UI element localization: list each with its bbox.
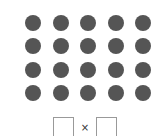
dot [108, 62, 124, 78]
dot [135, 85, 151, 101]
factor1-input[interactable] [53, 117, 74, 137]
dot [53, 15, 69, 31]
dot [80, 38, 96, 54]
dot [80, 15, 96, 31]
times-sign: × [74, 117, 96, 137]
dot [108, 38, 124, 54]
multiplication-answer: × [53, 116, 117, 136]
dot [135, 15, 151, 31]
dot [53, 38, 69, 54]
dot [108, 15, 124, 31]
dot [25, 38, 41, 54]
dot [135, 38, 151, 54]
dot [53, 62, 69, 78]
dot [53, 85, 69, 101]
dot [135, 62, 151, 78]
dot [25, 62, 41, 78]
dot [108, 85, 124, 101]
dot [25, 15, 41, 31]
dot [25, 85, 41, 101]
dot [80, 85, 96, 101]
factor2-input[interactable] [96, 117, 117, 137]
dot [80, 62, 96, 78]
